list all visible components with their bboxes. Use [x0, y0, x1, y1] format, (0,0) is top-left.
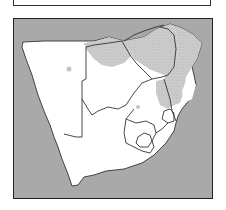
map-frame	[13, 18, 213, 199]
map-svg	[14, 19, 211, 197]
spot-namibia	[67, 67, 72, 72]
spot-southafrica	[136, 105, 140, 109]
caption-box	[13, 0, 211, 6]
